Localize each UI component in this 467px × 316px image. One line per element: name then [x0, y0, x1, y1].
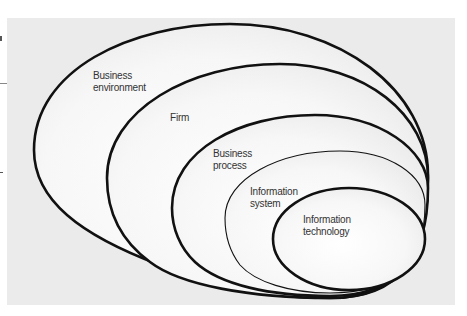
label-line: Information [250, 186, 298, 198]
label-line: Firm [170, 112, 189, 124]
label-line: Information [303, 214, 351, 226]
label-information-system: Information system [250, 186, 298, 210]
label-line: Business [93, 70, 146, 82]
label-firm: Firm [170, 112, 189, 124]
label-line: process [213, 160, 252, 172]
label-business-process: Business process [213, 148, 252, 172]
label-line: environment [93, 82, 146, 94]
label-line: Business [213, 148, 252, 160]
label-line: system [250, 198, 298, 210]
label-line: technology [303, 226, 351, 238]
label-information-technology: Information technology [303, 214, 351, 238]
label-business-environment: Business environment [93, 70, 146, 94]
